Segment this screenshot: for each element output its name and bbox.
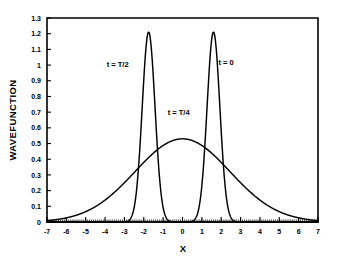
y-tick-label: 1.1 [31, 46, 41, 53]
y-tick-label: 0.6 [31, 124, 41, 131]
y-tick-label: 0.7 [31, 109, 41, 116]
y-tick-label: 0.5 [31, 140, 41, 147]
y-axis-title: WAVEFUNCTION [7, 79, 18, 160]
x-tick-label: 6 [297, 228, 301, 235]
x-tick-label: -7 [44, 228, 50, 235]
curve-annotation: t = T/4 [168, 108, 191, 117]
y-tick-label: 0.2 [31, 187, 41, 194]
x-axis-title: X [180, 243, 187, 254]
x-tick-label: 2 [219, 228, 223, 235]
curve-annotation: t = 0 [218, 58, 233, 67]
wavefunction-chart-figure: 00.10.20.30.40.50.60.70.80.911.11.21.3 -… [0, 0, 342, 264]
curve-annotation: t = T/2 [107, 60, 129, 69]
x-tick-label: 3 [239, 228, 243, 235]
x-tick-label: 1 [200, 228, 204, 235]
x-axis-tick-labels: -7-6-5-4-3-2-101234567 [44, 228, 320, 235]
x-tick-label: 7 [316, 228, 320, 235]
x-tick-label: -1 [160, 228, 166, 235]
y-tick-label: 1.3 [31, 15, 41, 22]
y-tick-label: 0.9 [31, 77, 41, 84]
chart-background [0, 0, 342, 264]
y-tick-label: 1.2 [31, 30, 41, 37]
chart-canvas: 00.10.20.30.40.50.60.70.80.911.11.21.3 -… [0, 0, 342, 264]
y-tick-label: 0 [37, 219, 41, 226]
x-tick-label: -4 [102, 228, 108, 235]
x-tick-label: 0 [181, 228, 185, 235]
y-tick-label: 0.1 [31, 203, 41, 210]
y-tick-label: 0.8 [31, 93, 41, 100]
y-tick-label: 0.4 [31, 156, 41, 163]
x-tick-label: 5 [277, 228, 281, 235]
x-tick-label: -3 [121, 228, 127, 235]
x-tick-label: 4 [258, 228, 262, 235]
y-tick-label: 1 [37, 62, 41, 69]
y-tick-label: 0.3 [31, 172, 41, 179]
x-tick-label: -5 [83, 228, 89, 235]
x-tick-label: -2 [141, 228, 147, 235]
x-tick-label: -6 [63, 228, 69, 235]
